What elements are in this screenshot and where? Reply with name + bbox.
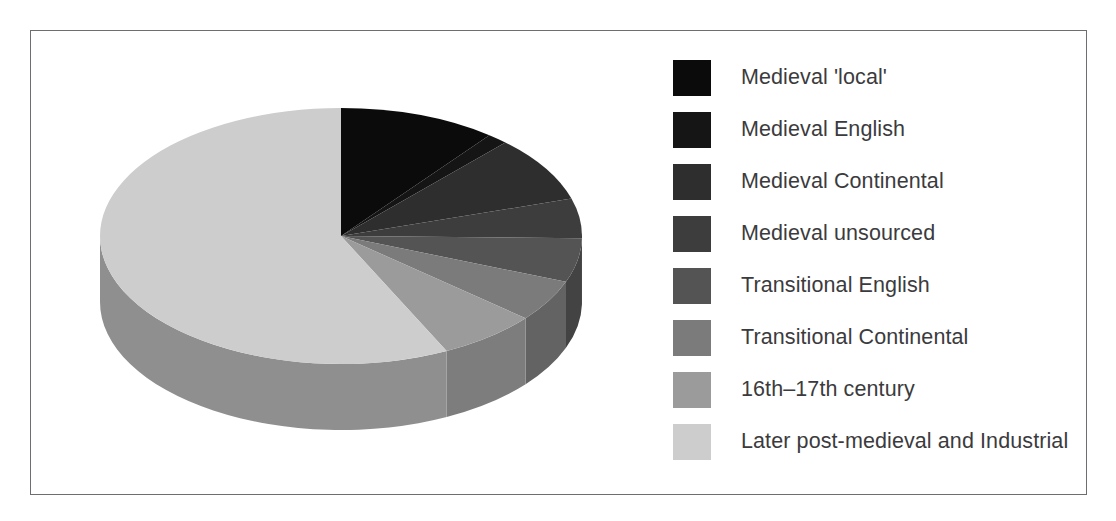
legend-item-16th-17th-century[interactable]: 16th–17th century [673,364,1073,416]
legend-item-medieval-english[interactable]: Medieval English [673,104,1073,156]
legend-swatch-icon [673,268,711,304]
legend-swatch-icon [673,424,711,460]
legend-item-medieval-local[interactable]: Medieval 'local' [673,52,1073,104]
legend-item-label: Medieval English [741,118,905,142]
legend-item-label: Transitional English [741,274,930,298]
legend-swatch-icon [673,372,711,408]
legend-swatch-icon [673,164,711,200]
legend-item-label: Medieval 'local' [741,66,887,90]
legend-item-label: Medieval Continental [741,170,944,194]
legend-swatch-icon [673,320,711,356]
pie-chart [60,80,640,460]
legend-item-label: Medieval unsourced [741,222,935,246]
chart-legend: Medieval 'local' Medieval English Mediev… [673,52,1073,468]
legend-item-medieval-continental[interactable]: Medieval Continental [673,156,1073,208]
chart-area: Medieval 'local' Medieval English Mediev… [0,0,1116,521]
legend-item-label: Transitional Continental [741,326,968,350]
legend-swatch-icon [673,60,711,96]
legend-item-transitional-english[interactable]: Transitional English [673,260,1073,312]
legend-swatch-icon [673,216,711,252]
figure-root: Medieval 'local' Medieval English Mediev… [0,0,1116,521]
legend-item-label: 16th–17th century [741,378,915,402]
legend-item-later-post-medieval-and-industrial[interactable]: Later post-medieval and Industrial [673,416,1073,468]
legend-item-transitional-continental[interactable]: Transitional Continental [673,312,1073,364]
legend-swatch-icon [673,112,711,148]
legend-item-label: Later post-medieval and Industrial [741,430,1068,454]
legend-item-medieval-unsourced[interactable]: Medieval unsourced [673,208,1073,260]
